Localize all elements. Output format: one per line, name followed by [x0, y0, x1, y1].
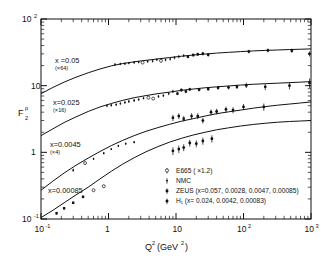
data-point: [176, 92, 178, 95]
filled-circle-marker: [232, 109, 235, 112]
data-point: [267, 49, 270, 53]
small-dot-marker: [125, 143, 127, 145]
fit-curve: [41, 49, 311, 94]
legend-label: NMC: [176, 177, 191, 184]
small-dot-marker: [110, 104, 112, 106]
fit-curve: [41, 82, 311, 136]
data-point: [172, 90, 174, 93]
small-dot-marker: [169, 58, 171, 60]
open-circle-marker: [147, 96, 150, 99]
filled-circle-marker: [308, 52, 311, 55]
data-point: [103, 152, 105, 154]
filled-circle-marker: [264, 85, 267, 88]
filled-circle-marker: [290, 49, 293, 52]
data-point: [308, 51, 311, 56]
data-point: [182, 144, 185, 151]
data-point: [152, 97, 155, 100]
data-point: [180, 88, 182, 91]
data-point: [178, 113, 180, 119]
x-tick-label: 1: [105, 224, 110, 234]
square-marker: [82, 196, 84, 198]
f2p-vs-q2-chart: 10-1110102103 10210110-1 F 2 p Q 2 (GeV …: [0, 0, 327, 261]
data-point: [125, 143, 127, 145]
x-tick-labels: 10-1110102103: [35, 223, 319, 234]
x-tick-label: 10: [35, 224, 45, 234]
filled-circle-marker: [267, 49, 270, 52]
data-point: [118, 145, 120, 147]
filled-circle-marker: [201, 52, 204, 55]
open-circle-marker: [141, 61, 144, 64]
filled-circle-marker: [201, 140, 204, 143]
filled-circle-marker: [225, 108, 228, 111]
x-axis-title-unit: (GeV: [157, 242, 178, 252]
small-dot-marker: [174, 57, 176, 59]
small-dot-marker: [158, 96, 160, 98]
data-point: [128, 100, 130, 103]
data-point: [160, 59, 163, 62]
x-axis-title-unit-sup: 2: [181, 240, 184, 246]
filled-circle-marker: [188, 88, 191, 91]
small-dot-marker: [183, 55, 185, 57]
x-tick-label: 10: [173, 224, 183, 234]
small-dot-marker: [128, 101, 130, 103]
y-tick-label: 1: [31, 147, 36, 157]
data-point: [201, 138, 204, 145]
small-dot-marker: [165, 59, 167, 61]
data-point: [165, 58, 167, 61]
data-point: [172, 147, 174, 155]
data-point: [195, 140, 198, 147]
data-point: [120, 102, 122, 105]
square-marker: [187, 55, 189, 57]
curve-annotation-scale: (×64): [55, 65, 68, 71]
data-point: [141, 61, 144, 64]
data-point: [133, 99, 135, 102]
filled-circle-marker: [195, 142, 198, 145]
x-tick-exponent: 3: [316, 223, 319, 229]
data-point: [84, 162, 87, 165]
filled-circle-marker: [215, 110, 218, 113]
data-point: [197, 53, 199, 56]
open-circle-marker: [152, 97, 155, 100]
square-marker: [192, 54, 194, 56]
open-circle-marker: [102, 185, 105, 188]
data-point: [192, 53, 194, 56]
x-tick-label: 10: [237, 224, 247, 234]
data-point: [55, 212, 57, 215]
square-marker: [190, 115, 192, 117]
square-marker: [72, 202, 74, 204]
small-dot-marker: [120, 63, 122, 65]
x-tick-exponent: -1: [46, 223, 51, 229]
curve-annotation-label: x =0.05: [55, 56, 79, 65]
data-point: [185, 90, 187, 94]
filled-circle-marker: [227, 86, 230, 89]
open-circle-marker: [92, 189, 95, 192]
data-point: [183, 54, 185, 57]
filled-circle-marker: [288, 84, 291, 87]
x-axis-title-unit-close: ): [185, 242, 188, 252]
curve-annotation-label: x=0.025: [53, 98, 80, 107]
filled-circle-marker: [217, 86, 220, 89]
data-point: [163, 94, 165, 97]
small-dot-marker: [72, 169, 74, 171]
filled-circle-marker: [262, 106, 265, 109]
figure-container: 10-1110102103 10210110-1 F 2 p Q 2 (GeV …: [0, 0, 327, 261]
data-point: [72, 169, 74, 172]
small-dot-marker: [124, 102, 126, 104]
filled-circle-errorbar-icon: [166, 200, 169, 203]
data-point: [190, 113, 192, 119]
data-point: [262, 104, 265, 111]
data-point: [143, 97, 145, 100]
x-axis-title-sup: 2: [152, 240, 155, 246]
small-dot-errorbar-icon: [166, 180, 168, 182]
small-dot-marker: [133, 62, 135, 64]
data-point: [187, 55, 189, 58]
y-axis-title-sup: p: [25, 105, 28, 111]
data-point: [247, 50, 250, 54]
legend-label: ZEUS (x=0.057, 0.0028, 0.0047, 0.00085): [176, 187, 299, 195]
small-dot-marker: [103, 152, 105, 154]
data-point: [93, 158, 95, 160]
small-dot-marker: [124, 63, 126, 65]
filled-circle-marker: [196, 115, 199, 118]
small-dot-marker: [156, 59, 158, 61]
x-axis-title: Q 2 (GeV 2 ): [145, 240, 188, 252]
